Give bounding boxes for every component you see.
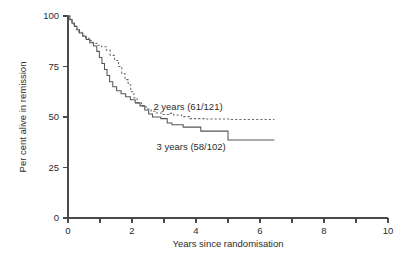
survival-curve-figure: 0255075100 0246810 2 years (61/121)3 yea… (0, 0, 403, 262)
y-tick-label-25: 25 (48, 162, 59, 173)
x-axis-title: Years since randomisation (172, 238, 283, 249)
y-tick-label-75: 75 (48, 61, 59, 72)
x-tick-label-10: 10 (383, 225, 394, 236)
x-tick-label-8: 8 (321, 225, 326, 236)
y-tick-label-100: 100 (43, 10, 59, 21)
kaplan-meier-chart: 0255075100 0246810 2 years (61/121)3 yea… (0, 0, 403, 262)
x-tick-label-2: 2 (129, 225, 134, 236)
x-axis-tick-labels: 0246810 (65, 225, 393, 236)
y-tick-label-50: 50 (48, 111, 59, 122)
y-axis-tick-labels: 0255075100 (43, 10, 59, 223)
annotation-label-1: 2 years (61/121) (153, 101, 222, 112)
x-axis-ticks (68, 218, 388, 223)
x-tick-label-4: 4 (193, 225, 198, 236)
annotation-label-2: 3 years (58/102) (157, 141, 226, 152)
survival-curves (68, 16, 274, 140)
y-axis-ticks (63, 16, 68, 218)
y-axis-title: Per cent alive in remission (17, 62, 28, 173)
x-tick-label-6: 6 (257, 225, 262, 236)
y-tick-label-0: 0 (54, 212, 59, 223)
survival-curve-2 (68, 16, 274, 140)
x-tick-label-0: 0 (65, 225, 70, 236)
